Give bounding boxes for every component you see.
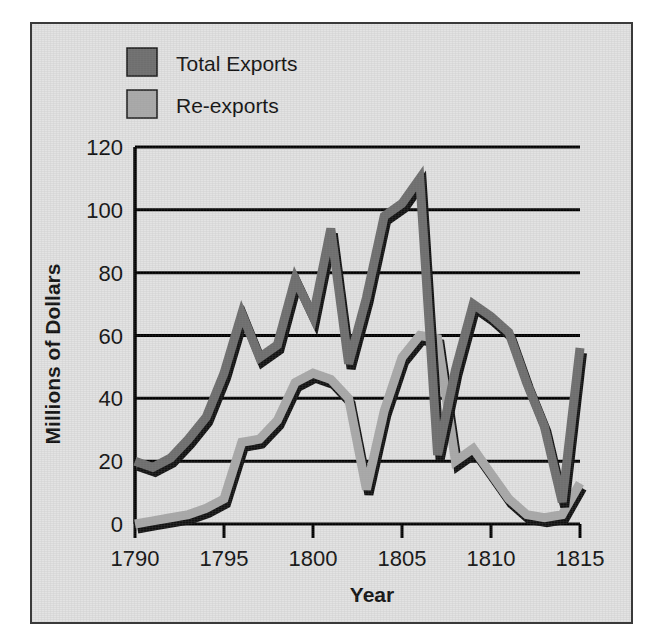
chart-legend: Total Exports Re-exports xyxy=(127,48,297,118)
y-tick-label-20: 20 xyxy=(99,449,123,474)
y-tick-label-40: 40 xyxy=(99,386,123,411)
y-tick-label-60: 60 xyxy=(99,324,123,349)
legend-swatch-total-exports xyxy=(127,48,157,76)
legend-label-total-exports: Total Exports xyxy=(176,52,297,75)
x-tick-label-1795: 1795 xyxy=(200,546,249,571)
y-axis-tick-labels: 120100806040200 xyxy=(86,135,123,537)
x-axis-tick-labels: 179017951800180518101815 xyxy=(111,546,605,571)
y-axis-title: Millions of Dollars xyxy=(41,264,64,445)
x-axis-ticks xyxy=(135,524,580,538)
x-tick-label-1810: 1810 xyxy=(467,546,516,571)
x-tick-label-1805: 1805 xyxy=(378,546,427,571)
chart-figure-frame: Total Exports Re-exports 120100806040200… xyxy=(30,22,633,624)
y-tick-label-80: 80 xyxy=(99,261,123,286)
x-tick-label-1790: 1790 xyxy=(111,546,160,571)
y-tick-label-120: 120 xyxy=(86,135,123,160)
legend-swatch-re-exports xyxy=(127,90,157,118)
chart-series-group xyxy=(135,178,583,529)
x-axis-title: Year xyxy=(350,583,394,606)
y-tick-label-100: 100 xyxy=(86,198,123,223)
legend-label-re-exports: Re-exports xyxy=(176,94,279,117)
x-tick-label-1800: 1800 xyxy=(289,546,338,571)
x-tick-label-1815: 1815 xyxy=(556,546,605,571)
exports-line-chart: Total Exports Re-exports 120100806040200… xyxy=(32,24,631,622)
y-tick-label-0: 0 xyxy=(111,512,123,537)
